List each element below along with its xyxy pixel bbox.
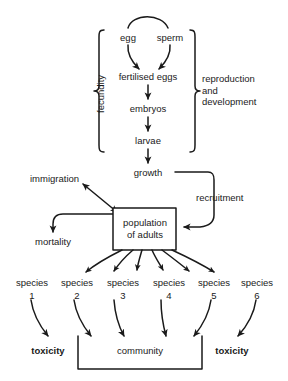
node-label-toxicity-right: toxicity [215,345,248,356]
node-label-toxicity-left: toxicity [31,345,64,356]
arrow-species-1-to-toxicity-left [31,300,48,336]
arrow-immigration-population-bidirectional [83,184,117,212]
diagram-vector-layer [0,0,288,381]
species-label-name-6: species [241,277,273,288]
node-label-egg: egg [120,32,136,43]
egg-sperm-arc [128,17,168,28]
species-label-number-1: 1 [29,290,34,301]
node-label-immigration: immigration [30,173,79,184]
node-label-recruitment: recruitment [196,192,244,203]
node-label-population-of-adults: population of adults [123,217,167,240]
bracket-label-reproduction-and-development: reproduction and development [202,73,256,108]
node-label-growth: growth [134,167,163,178]
diagram-canvas: egg sperm fertilised eggs embryos larvae… [0,0,288,381]
node-label-community: community [117,345,163,356]
node-label-larvae: larvae [135,135,161,146]
arrow-population-to-species-5 [162,250,189,271]
species-label-number-2: 2 [74,290,79,301]
bracket-label-fecundity: fecundity [95,75,106,113]
arrow-sperm-to-fertilised-eggs [159,45,170,69]
arrow-species-6-to-toxicity-right [238,300,256,336]
node-label-embryos: embryos [130,103,166,114]
node-label-mortality: mortality [35,236,71,247]
species-label-name-2: species [61,277,93,288]
arrow-species-4-to-community [161,300,166,336]
species-label-name-3: species [107,277,139,288]
arrow-population-to-species-1 [86,250,122,272]
node-label-fertilised-eggs: fertilised eggs [119,71,178,82]
species-label-name-5: species [198,277,230,288]
node-label-sperm: sperm [157,32,183,43]
arrow-species-2-to-community [74,300,91,336]
species-label-number-6: 6 [254,290,259,301]
reproduction-development-bracket [190,30,200,152]
species-label-number-3: 3 [120,290,125,301]
species-label-number-4: 4 [166,290,171,301]
arrow-population-to-species-3 [137,250,142,270]
arrow-population-to-species-4 [152,250,163,270]
species-label-name-1: species [16,277,48,288]
arrow-egg-to-fertilised-eggs [128,45,139,69]
arrow-population-to-species-6 [172,250,214,272]
arrow-population-to-mortality [53,214,113,232]
arrow-species-3-to-community [114,300,124,336]
arrow-species-5-to-community [194,300,211,336]
species-label-name-4: species [153,277,185,288]
species-label-number-5: 5 [211,290,216,301]
